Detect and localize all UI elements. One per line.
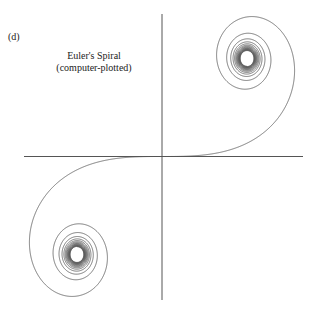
figure: (d) Euler's Spiral (computer-plotted) (0, 0, 322, 314)
title-line-1: Euler's Spiral (54, 50, 134, 62)
figure-title: Euler's Spiral (computer-plotted) (54, 50, 134, 74)
title-line-2: (computer-plotted) (54, 62, 134, 74)
plot-area (0, 0, 322, 314)
panel-label: (d) (8, 31, 20, 43)
